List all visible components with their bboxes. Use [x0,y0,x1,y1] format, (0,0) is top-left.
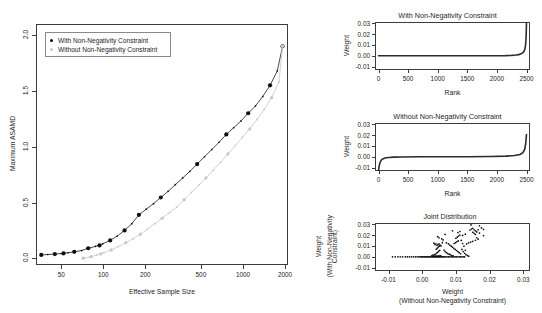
xtick-mark-4 [497,171,498,174]
series-point [218,141,220,143]
xtick-mark-5 [527,171,528,174]
series-marker [72,250,76,254]
scatter-point [456,236,458,238]
series-point [116,235,118,237]
ytick-mark-4 [372,124,375,125]
xtick-mark-2 [438,171,439,174]
main-yaxis-label: Maximum ASAMD [9,23,16,264]
scatter-point [394,256,396,258]
scatter-point [469,229,471,231]
main-xtick-label-4: 1000 [223,271,263,278]
main-xtick-mark-3 [201,265,202,269]
series-point [102,243,104,245]
joint-distribution-title: Joint Distribution [380,212,520,221]
series-point [212,169,214,171]
scatter-point [462,243,464,245]
main-ytick-label-4: 2.0 [22,26,29,44]
scatter-point [454,249,456,251]
joint-ytick-label-4: 0.03 [343,221,370,228]
main-xtick-label-5: 2000 [265,271,305,278]
without-constraint-canvas [375,123,530,171]
with-constraint-xaxis-label: Rank [375,89,530,96]
scatter-point [468,255,470,257]
joint-ytick-label-3: 0.02 [343,232,370,239]
main-ytick-mark-0 [32,258,36,259]
series-point [145,208,147,210]
main-ytick-label-2: 1.0 [22,137,29,155]
scatter-point [404,256,406,258]
series-point [117,246,119,248]
series-marker [110,248,113,251]
joint-ytick-mark-0 [372,268,375,269]
scatter-point [448,243,450,245]
scatter-point [473,229,475,231]
series-marker [108,238,112,242]
main-legend: With Non-Negativity Constraint Without N… [45,32,171,57]
scatter-point [444,234,446,236]
ytick-mark-2 [372,146,375,147]
joint-ytick-mark-2 [372,246,375,247]
scatter-point [457,251,459,253]
series-marker [139,233,142,236]
series-marker [39,253,43,257]
scatter-point [477,238,479,240]
xtick-mark-5 [527,70,528,73]
legend-label-without: Without Non-Negativity Constraint [58,45,157,54]
series-point [95,246,97,248]
series-point [167,191,169,193]
main-xtick-mark-1 [103,265,104,269]
scatter-point [409,256,411,258]
xtick-mark-3 [467,70,468,73]
series-point [190,192,192,194]
series-point [47,254,49,256]
series-point [262,96,264,98]
scatter-point [479,225,481,227]
ytick-mark-3 [372,34,375,35]
scatter-point [397,256,399,258]
series-point [176,206,178,208]
scatter-point [455,237,457,239]
series-point [154,223,156,225]
scatter-point [435,243,437,245]
without-constraint-yaxis-label: Weight [343,123,350,171]
xtick-mark-4 [497,70,498,73]
scatter-point [399,256,401,258]
series-point [204,156,206,158]
scatter-point [459,231,461,233]
series-marker [226,152,229,155]
scatter-point [456,250,458,252]
ytick-mark-3 [372,135,375,136]
figure-root: 50100200500100020000.00.51.01.52.0 Effec… [0,0,542,313]
series-marker [99,252,102,255]
scatter-point [472,227,474,229]
ytick-mark-1 [372,56,375,57]
scatter-point [483,228,485,230]
panel-with-constraint: With Non-Negativity Constraint 050010001… [300,2,542,102]
series-marker [159,195,163,199]
scatter-point [479,232,481,234]
xtick-mark-0 [379,171,380,174]
scatter-point [440,245,442,247]
xtick-label-5: 2500 [507,176,542,183]
with-constraint-title: With Non-Negativity Constraint [360,11,535,20]
panel-without-constraint: Without Non-Negativity Constraint 050010… [300,103,542,203]
series-marker [246,111,250,115]
scatter-point [452,230,454,232]
series-point [96,254,98,256]
series-point [174,184,176,186]
joint-xtick-mark-0 [389,271,390,274]
main-xtick-label-1: 100 [83,271,123,278]
scatter-point [477,229,479,231]
series-marker [82,257,85,260]
scatter-point [460,253,462,255]
series-line-1 [83,46,282,258]
scatter-point [439,249,441,251]
scatter-point [402,256,404,258]
series-marker [224,132,228,136]
series-marker [90,255,93,258]
ytick-mark-0 [372,168,375,169]
scatter-point [466,243,468,245]
main-xtick-mark-5 [285,265,286,269]
joint-yaxis-label-line1: Weight [315,223,322,271]
joint-ytick-label-2: 0.01 [343,242,370,249]
